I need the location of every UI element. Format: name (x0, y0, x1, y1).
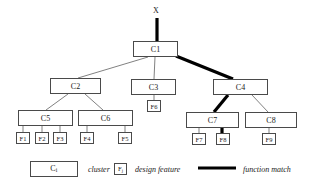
legend-cluster-label: cluster (88, 165, 110, 174)
feature-node-f5[interactable]: F5 (118, 132, 132, 144)
feature-node-f1[interactable]: F1 (16, 132, 30, 144)
feature-node-label: F3 (56, 135, 63, 142)
legend-design-feature-label: design feature (135, 165, 180, 174)
feature-node-f9[interactable]: F9 (262, 133, 276, 145)
cluster-node-c2[interactable]: C2 (50, 78, 101, 94)
cluster-node-c6[interactable]: C6 (78, 110, 133, 126)
cluster-node-label: C7 (208, 116, 218, 125)
feature-node-f3[interactable]: F3 (53, 132, 67, 144)
feature-node-label: F9 (265, 136, 272, 143)
feature-node-label: F4 (83, 135, 90, 142)
feature-node-label: F1 (19, 135, 26, 142)
cluster-node-c1[interactable]: C1 (133, 41, 178, 57)
feature-node-f4[interactable]: F4 (80, 132, 94, 144)
cluster-node-c5[interactable]: C5 (18, 110, 73, 126)
cluster-node-label: C8 (266, 116, 276, 125)
edge-c1-to-c3 (154, 57, 155, 79)
function-match-edge-c1-to-c4 (176, 56, 233, 79)
root-node-label: X (153, 6, 159, 15)
edge-c2-to-c5 (46, 94, 68, 110)
legend-feature-symbol: Fj (114, 163, 127, 175)
cluster-node-label: C6 (101, 114, 111, 123)
feature-node-f6[interactable]: F6 (147, 100, 161, 112)
legend-function-match-line (196, 162, 238, 174)
legend-cluster-symbol: Ci (30, 161, 78, 177)
function-match-edge-c4-to-c7 (214, 95, 228, 112)
diagram-canvas: X C1C2C3C4C5C6C7C8 F1F2F3F4F5F6F7F8F9 Ci… (0, 0, 314, 185)
legend-function-match-label: function match (243, 165, 291, 174)
cluster-node-c7[interactable]: C7 (186, 112, 239, 128)
cluster-node-label: C4 (236, 83, 246, 92)
feature-node-label: F6 (150, 103, 157, 110)
legend-cluster-symbol-text: Ci (50, 164, 57, 173)
cluster-node-label: C2 (71, 82, 81, 91)
cluster-node-c4[interactable]: C4 (213, 79, 268, 95)
cluster-node-label: C1 (151, 45, 161, 54)
edge-c1-to-c2 (78, 57, 148, 78)
feature-node-f8[interactable]: F8 (216, 133, 230, 145)
feature-node-label: F7 (195, 136, 202, 143)
cluster-node-c8[interactable]: C8 (245, 112, 297, 128)
feature-node-f7[interactable]: F7 (192, 133, 206, 145)
legend-feature-symbol-text: Fj (118, 165, 123, 173)
cluster-node-c3[interactable]: C3 (131, 79, 176, 95)
cluster-node-label: C3 (149, 83, 159, 92)
edge-c2-to-c6 (85, 94, 103, 110)
edge-c4-to-c8 (252, 95, 268, 112)
feature-node-label: F8 (219, 136, 226, 143)
feature-node-f2[interactable]: F2 (35, 132, 49, 144)
feature-node-label: F2 (38, 135, 45, 142)
feature-node-label: F5 (121, 135, 128, 142)
cluster-node-label: C5 (41, 114, 51, 123)
